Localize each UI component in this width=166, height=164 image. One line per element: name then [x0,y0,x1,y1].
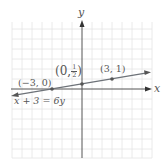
fraction-denominator: 2 [72,72,76,79]
equation-label: x + 3 = 6y [14,96,65,106]
point-label-3-1: (3, 1) [100,64,126,74]
point-label-suffix: ) [77,65,82,77]
point-label-neg3-0: (−3, 0) [18,78,52,88]
point-label-0-half: (0, 1 2 ) [55,64,82,78]
point-label-prefix: (0, [55,65,71,77]
y-axis-label: y [78,7,84,18]
x-axis-label: x [154,83,160,94]
point-0-half [80,82,84,86]
point-3-1 [110,77,114,81]
